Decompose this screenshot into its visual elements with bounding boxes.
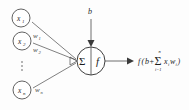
input-node-x2-label: x <box>17 37 22 46</box>
ellipsis-dot-3 <box>21 69 23 71</box>
weight-label-w2: w 2 <box>33 46 42 55</box>
weight-w2-subscript: 2 <box>39 50 42 55</box>
input-node-x2-circle <box>13 32 31 50</box>
weight-wn-subscript: n <box>41 90 44 95</box>
input-node-xn-label: x <box>17 86 22 95</box>
input-node-x1-label: x <box>16 14 21 23</box>
formula-lower-limit: i=1 <box>155 67 161 72</box>
input-node-x2[interactable]: x 2 <box>13 32 31 50</box>
input-ellipsis-icon <box>21 61 23 71</box>
ellipsis-dot-2 <box>21 65 23 67</box>
input-node-x1[interactable]: x 1 <box>12 9 30 27</box>
input-node-x1-subscript: 1 <box>22 19 25 24</box>
weight-w1-base: w <box>33 32 38 40</box>
diagram-canvas: x 1 x 2 x n w 1 w 2 w <box>0 0 189 110</box>
formula-close-paren: ) <box>177 57 181 66</box>
output-arrow <box>105 58 134 65</box>
weight-w1-subscript: 1 <box>39 36 41 41</box>
input-edges <box>32 22 77 88</box>
bias-label: b <box>88 7 92 16</box>
input-node-xn-circle <box>13 81 31 99</box>
weight-wn-base: w <box>35 86 40 94</box>
weight-label-wn: w n <box>35 86 44 95</box>
neuron-diagram: x 1 x 2 x n w 1 w 2 w <box>0 0 189 110</box>
weight-w2-base: w <box>33 46 38 54</box>
edge-xn-to-body <box>33 63 76 88</box>
bias-input[interactable]: b <box>88 7 95 47</box>
input-node-xn[interactable]: x n <box>13 81 31 99</box>
formula-sigma-glyph: Σ <box>155 54 162 68</box>
bias-arrowhead <box>88 40 95 47</box>
input-node-x1-circle <box>12 9 30 27</box>
weight-label-w1: w 1 <box>33 32 41 41</box>
summation-glyph: Σ <box>79 55 85 67</box>
ellipsis-dot-1 <box>21 61 23 63</box>
output-formula: f ( b + n Σ i=1 x i w i ) <box>138 49 181 72</box>
neuron-body[interactable]: Σ f <box>77 47 105 75</box>
output-arrowhead <box>127 58 134 65</box>
